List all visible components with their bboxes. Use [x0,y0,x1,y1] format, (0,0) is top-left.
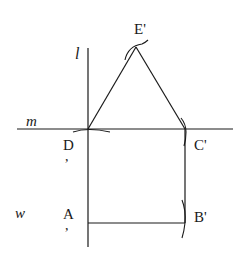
arc-at-E [125,40,148,60]
label-line-l: l [75,46,79,62]
label-point-B: B' [194,210,207,225]
label-point-A-prime: , [65,219,69,233]
segment-DE [88,47,136,129]
label-line-w: w [15,206,25,221]
label-line-m: m [26,114,37,129]
label-point-E: E' [134,22,146,37]
label-point-C: C' [194,138,207,153]
construction-diagram: l m w E' D , C' A , B' [0,0,242,258]
label-point-D-prime: , [65,150,69,164]
arc-at-D [73,130,110,133]
segment-EC [136,47,185,129]
